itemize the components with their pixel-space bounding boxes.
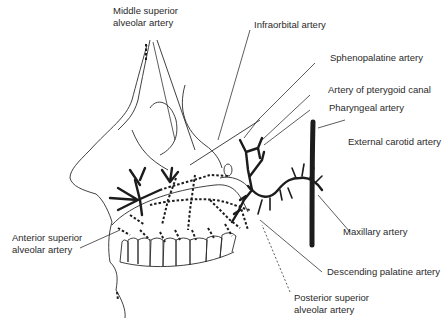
label-pharyngeal-artery: Pharyngeal artery [329,102,404,114]
maxillary-artery-diagram: Middle superior alveolar artery Infraorb… [0,0,448,331]
anatomy-drawing [0,0,448,331]
label-anterior-superior-alveolar-artery: Anterior superior alveolar artery [12,232,82,256]
label-artery-of-pterygoid-canal: Artery of pterygoid canal [328,84,431,96]
label-sphenopalatine-artery: Sphenopalatine artery [330,52,423,64]
label-maxillary-artery: Maxillary artery [343,226,407,238]
label-line-1: Anterior superior [12,232,82,244]
infraorbital-foramen [224,164,232,176]
label-line-1: Middle superior [113,5,178,17]
label-line-2: alveolar artery [113,17,178,29]
label-infraorbital-artery: Infraorbital artery [254,19,326,31]
label-line-2: alveolar artery [12,244,82,256]
label-descending-palatine-artery: Descending palatine artery [327,266,440,278]
maxillary-teeth [120,233,236,267]
label-external-carotid-artery: External carotid artery [348,136,441,148]
label-middle-superior-alveolar-artery: Middle superior alveolar artery [113,5,178,29]
label-line-1: Posterior superior [294,292,369,304]
label-posterior-superior-alveolar-artery: Posterior superior alveolar artery [294,292,369,316]
external-carotid-artery [312,122,313,245]
label-line-2: alveolar artery [294,304,369,316]
